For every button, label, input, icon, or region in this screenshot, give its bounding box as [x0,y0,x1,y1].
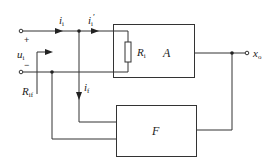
circuit-svg: + − ui ii ii′ if Rif Ri A F xo [0,0,273,162]
output-label: xo [252,47,262,61]
rif-arrow-icon [45,49,53,55]
rif-label: Rif [21,85,34,99]
feedback-current-arrow-icon [76,92,82,100]
junction-output-node [230,51,234,55]
amplifier-label: A [162,46,171,60]
amp-input-current-arrow-icon [91,28,99,34]
input-voltage-label: ui [17,48,25,62]
ri-label: Ri [136,46,146,60]
feedback-current-wire [79,31,116,122]
input-terminal-plus [19,29,23,33]
rif-indicator-line [37,52,50,94]
feedback-current-label: if [84,81,90,95]
input-current-label: ii [59,14,64,28]
input-current-arrow-icon [55,28,63,34]
feedback-circuit-diagram: + − ui ii ii′ if Rif Ri A F xo [0,0,273,162]
input-terminal-minus [19,70,23,74]
plus-sign: + [24,35,29,45]
feedback-label: F [151,124,160,138]
junction-top-node [77,29,81,33]
amp-input-current-label: ii′ [88,12,95,28]
output-terminal [245,51,249,55]
junction-bottom-node [50,70,54,74]
output-feedback-wire [197,53,232,130]
input-resistor [125,42,131,62]
minus-sign: − [24,60,29,70]
